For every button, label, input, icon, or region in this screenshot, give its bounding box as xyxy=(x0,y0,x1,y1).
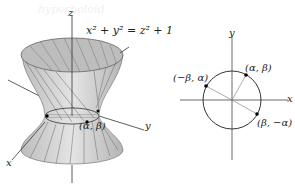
equation-label: x² + y² = z² + 1 xyxy=(86,25,173,36)
radius-line xyxy=(232,75,246,100)
radius-line xyxy=(232,100,257,114)
figure-canvas: hyperboloid xyxy=(0,0,295,187)
point-marker xyxy=(97,110,100,113)
point-label-alpha-beta: (α, β) xyxy=(245,63,272,73)
point-label: (α, β) xyxy=(79,121,106,131)
y-axis-label: y xyxy=(145,121,151,131)
z-axis-label: z xyxy=(68,8,73,18)
radius-line xyxy=(206,86,232,100)
point-neg-beta-alpha xyxy=(204,84,208,88)
point-marker xyxy=(45,114,48,117)
y-axis-label: y xyxy=(229,28,235,38)
point-beta-neg-alpha xyxy=(255,112,259,116)
point-alpha-beta xyxy=(244,73,248,77)
point-label-neg-beta-alpha: (−β, α) xyxy=(173,73,208,83)
x-axis-label: x xyxy=(287,94,293,104)
x-axis-label: x xyxy=(6,158,12,168)
point-label-beta-neg-alpha: (β, −α) xyxy=(257,118,292,128)
